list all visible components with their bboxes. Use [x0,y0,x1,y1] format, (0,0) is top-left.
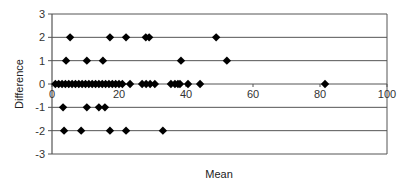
diamond-marker [184,80,192,88]
diamond-marker [101,103,109,111]
y-tick-label: -1 [35,101,45,113]
y-tick-label: 2 [39,31,45,43]
diamond-marker [83,56,91,64]
diamond-marker [177,56,185,64]
diamond-marker [159,126,167,134]
y-axis-title: Difference [13,59,25,109]
diamond-marker [321,80,329,88]
diamond-marker [62,56,70,64]
diamond-marker [106,126,114,134]
x-tick-label: 60 [247,88,259,100]
diamond-marker [151,80,159,88]
diamond-marker [66,33,74,41]
diamond-marker [223,56,231,64]
x-tick-label: 0 [49,88,55,100]
y-tick-label: 3 [39,8,45,20]
y-tick-label: -2 [35,125,45,137]
diamond-marker [212,33,220,41]
diamond-marker [122,126,130,134]
x-axis-tick-labels: 020406080100 [49,88,396,100]
diamond-marker [77,126,85,134]
bland-altman-scatter-chart: -3-2-10123 020406080100 Mean Difference [0,0,406,183]
y-tick-label: 1 [39,55,45,67]
x-tick-label: 20 [113,88,125,100]
diamond-marker [122,33,130,41]
diamond-marker [106,33,114,41]
x-axis-title: Mean [205,168,233,180]
diamond-marker [83,103,91,111]
x-tick-label: 100 [378,88,396,100]
diamond-marker [60,126,68,134]
y-axis-tick-labels: -3-2-10123 [35,8,45,160]
diamond-marker [59,103,67,111]
diamond-marker [196,80,204,88]
diamond-marker [126,80,134,88]
x-tick-label: 40 [180,88,192,100]
y-tick-label: 0 [39,78,45,90]
y-tick-label: -3 [35,148,45,160]
diamond-marker [99,56,107,64]
x-tick-label: 80 [314,88,326,100]
